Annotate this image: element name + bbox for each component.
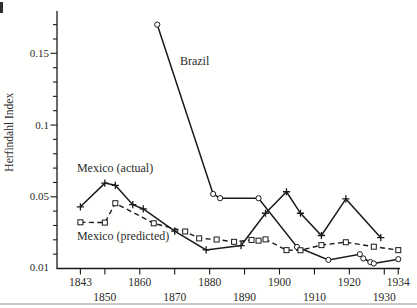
y-tick-label: 0.1	[35, 119, 49, 131]
square-marker	[151, 221, 156, 226]
square-marker	[319, 243, 324, 248]
x-tick-label: 1920	[338, 276, 361, 288]
square-marker	[78, 220, 83, 225]
circle-marker	[211, 191, 216, 196]
square-marker	[298, 248, 303, 253]
x-tick-label: 1870	[163, 291, 186, 303]
plus-marker	[203, 246, 210, 253]
square-marker	[183, 229, 188, 234]
x-tick-label: 1860	[128, 276, 151, 288]
square-marker	[256, 238, 261, 243]
y-tick-label: 0.15	[30, 47, 50, 59]
circle-marker	[326, 257, 331, 262]
scan-edge-mark	[0, 2, 3, 13]
x-tick-label: 1930	[373, 291, 396, 303]
circle-marker	[155, 22, 160, 27]
square-marker	[263, 237, 268, 242]
square-marker	[396, 248, 401, 253]
annotation-mexico-actual: Mexico (actual)	[77, 161, 153, 175]
circle-marker	[361, 256, 366, 261]
x-axis-ticks: 1843186018801900192019341850187018901910…	[69, 269, 410, 303]
square-marker	[232, 239, 237, 244]
x-tick-label: 1843	[69, 276, 92, 288]
circle-marker	[371, 261, 376, 266]
circle-marker	[396, 257, 401, 262]
square-marker	[371, 244, 376, 249]
series-line-mexico-predicted	[80, 203, 398, 250]
y-tick-label: 0.01	[30, 261, 49, 273]
herfindahl-index-chart: 0.010.050.10.151843186018801900192019341…	[0, 0, 417, 308]
square-marker	[284, 248, 289, 253]
annotation-mexico-predicted: Mexico (predicted)	[77, 229, 169, 243]
x-tick-label: 1910	[303, 291, 326, 303]
y-tick-label: 0.05	[30, 190, 50, 202]
x-tick-label: 1850	[93, 291, 116, 303]
x-tick-label: 1880	[198, 276, 221, 288]
square-marker	[343, 240, 348, 245]
figure-bottom-rule	[0, 303, 417, 305]
annotation-brazil: Brazil	[180, 54, 210, 68]
y-axis-title: Herfindahl Index	[3, 93, 15, 172]
square-marker	[197, 236, 202, 241]
square-marker	[113, 201, 118, 206]
circle-marker	[218, 196, 223, 201]
square-marker	[214, 237, 219, 242]
x-tick-label: 1900	[268, 276, 291, 288]
y-axis-ticks: 0.010.050.10.15	[30, 25, 57, 273]
square-marker	[102, 220, 107, 225]
square-marker	[249, 237, 254, 242]
chart-figure: 0.010.050.10.151843186018801900192019341…	[0, 0, 417, 308]
x-tick-label: 1934	[387, 276, 410, 288]
circle-marker	[256, 196, 261, 201]
x-tick-label: 1890	[233, 291, 256, 303]
